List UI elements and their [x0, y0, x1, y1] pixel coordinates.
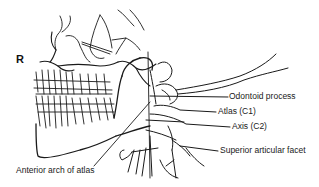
label-atlas-c1: Atlas (C1)	[218, 107, 256, 116]
anterior-arch-leader	[94, 52, 150, 178]
label-odontoid-process: Odontoid process	[229, 92, 296, 101]
mandible-outline	[36, 58, 153, 158]
upper-teeth	[34, 70, 112, 94]
label-axis-c2: Axis (C2)	[232, 122, 267, 131]
cervical-vertebrae	[120, 70, 230, 178]
lower-teeth	[36, 96, 114, 128]
label-anterior-arch-of-atlas: Anterior arch of atlas	[16, 166, 94, 175]
side-marker-right: R	[16, 54, 24, 65]
label-superior-articular-facet: Superior articular facet	[220, 146, 306, 155]
occipital-lines	[158, 54, 288, 94]
cranium-outline	[55, 10, 144, 62]
anatomy-diagram: R Odontoid process Atlas (C1) Axis (C2) …	[0, 0, 319, 187]
